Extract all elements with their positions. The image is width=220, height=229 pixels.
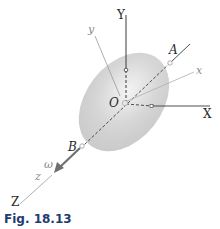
origin-point	[122, 100, 127, 105]
rigid-body-diagram: Y y A x O X B ω z Z	[0, 0, 220, 229]
label-Z: Z	[11, 195, 19, 209]
label-y: y	[87, 23, 95, 36]
label-omega: ω	[44, 158, 53, 171]
label-X: X	[203, 107, 212, 121]
label-B: B	[67, 140, 77, 154]
figure-caption: Fig. 18.13	[4, 212, 72, 226]
label-Y: Y	[116, 8, 126, 22]
label-O: O	[109, 96, 119, 110]
label-z: z	[34, 170, 41, 183]
label-A: A	[168, 43, 178, 57]
label-x: x	[196, 64, 203, 77]
